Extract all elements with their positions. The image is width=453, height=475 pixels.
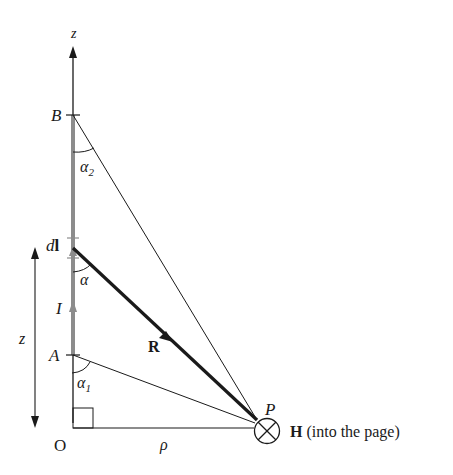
point-P-label: P [264,400,275,419]
R-arrowhead-icon [159,331,173,342]
into-page-icon [255,419,280,444]
alpha1-arc [72,362,90,373]
right-angle-marker [73,408,93,428]
rho-label: ρ [159,436,168,454]
dl-label: dl [46,236,60,255]
z-distance-arrow-up-icon [31,247,39,259]
point-A-label: A [48,346,60,365]
alpha2-arc [73,148,94,152]
biot-savart-diagram: z B α2 dl α I R A α1 z O ρ P H (into the… [0,0,453,475]
alpha-label: α [80,271,89,288]
z-axis-label: z [70,26,77,41]
alpha2-label: α2 [80,158,94,178]
point-B-label: B [51,106,62,125]
alpha1-label: α1 [77,374,91,394]
z-distance-arrow-down-icon [31,416,39,428]
line-B-to-P [73,115,257,420]
line-A-to-P [73,355,255,423]
R-vector-label: R [148,338,160,355]
z-distance-label: z [18,330,26,347]
diagram-svg: z B α2 dl α I R A α1 z O ρ P H (into the… [0,0,453,475]
origin-O-label: O [54,436,66,455]
current-I-label: I [55,299,63,318]
current-arrow-icon [69,300,77,312]
H-field-label: H (into the page) [290,423,400,441]
z-axis-arrowhead-icon [69,46,77,58]
